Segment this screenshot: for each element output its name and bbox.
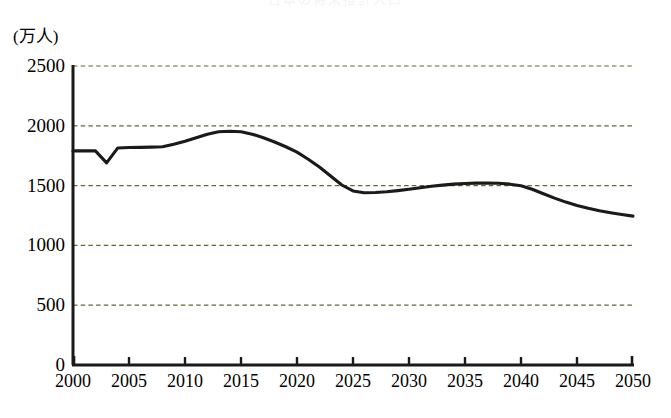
- x-axis-tick-label: 2045: [547, 371, 607, 391]
- y-axis-tick-label: 2500: [3, 56, 65, 75]
- x-axis-tick-label: 2035: [435, 371, 495, 391]
- data-series-group: [73, 131, 633, 216]
- gridlines-group: [73, 66, 634, 305]
- axis-lines-group: [72, 65, 634, 365]
- x-axis-tick-label: 2015: [211, 371, 271, 391]
- data-line: [73, 131, 633, 216]
- x-axis-tick-label: 2020: [267, 371, 327, 391]
- x-axis-tick-label: 2025: [323, 371, 383, 391]
- chart-container: 日本の将来推計人口 (万人) 05001000150020002500 2000…: [0, 0, 671, 418]
- chart-plot-area: [0, 0, 671, 418]
- y-axis-tick-label: 1000: [3, 235, 65, 254]
- x-axis-tick-label: 2050: [603, 371, 663, 391]
- y-axis-tick-label: 1500: [3, 176, 65, 195]
- x-axis-tick-label: 2040: [491, 371, 551, 391]
- x-axis-tick-label: 2005: [99, 371, 159, 391]
- x-axis-tick-label: 2000: [43, 371, 103, 391]
- x-axis-tick-label: 2030: [379, 371, 439, 391]
- x-axis-ticks-group: [74, 356, 632, 364]
- x-axis-tick-label: 2010: [155, 371, 215, 391]
- y-axis-tick-label: 500: [3, 295, 65, 314]
- y-axis-tick-label: 2000: [3, 116, 65, 135]
